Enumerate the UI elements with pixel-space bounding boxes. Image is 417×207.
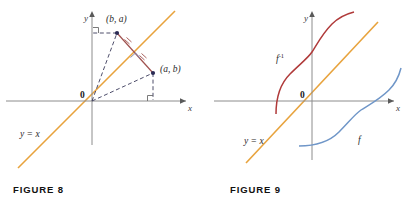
right-angle-mark-x-axis xyxy=(148,96,154,102)
label-curve-f-inverse: f-1 xyxy=(276,52,284,64)
label-curve-f-inverse-exponent: -1 xyxy=(279,52,284,59)
figure-9-caption: FIGURE 9 xyxy=(230,184,281,195)
figure-8-label-line-yx: y = x xyxy=(20,129,40,139)
right-angle-mark-y-axis xyxy=(93,28,99,34)
figure-8-origin-label: 0 xyxy=(80,90,85,100)
y-axis-arrow-icon xyxy=(89,11,95,17)
label-point-ba: (b, a) xyxy=(106,14,127,24)
x-axis-arrow-icon xyxy=(180,98,186,104)
figure-8-panel: y x 0 (b, a) (a, b) y = x FIGURE 8 xyxy=(0,0,209,207)
point-ba-marker xyxy=(115,31,119,35)
figure-8-x-axis-label: x xyxy=(188,103,192,113)
figure-9-plot xyxy=(208,0,417,175)
figure-8-y-axis-label: y xyxy=(84,13,88,23)
line-y-equals-x xyxy=(18,11,175,168)
figure-8-caption: FIGURE 8 xyxy=(13,184,64,195)
figure-pair-container: y x 0 (b, a) (a, b) y = x FIGURE 8 y x 0… xyxy=(0,0,417,207)
label-curve-f: f xyxy=(358,135,361,145)
figure-8-plot xyxy=(0,0,209,175)
figure-9-label-line-yx: y = x xyxy=(244,136,264,146)
dashed-origin-to-point-ab xyxy=(92,73,153,101)
figure-9-y-axis-label: y xyxy=(304,13,308,23)
x-axis-arrow-icon xyxy=(388,98,394,104)
equal-length-tick-marks xyxy=(125,38,147,61)
curve-f xyxy=(299,68,401,146)
y-axis-arrow-icon xyxy=(309,11,315,17)
figure-9-panel: y x 0 f-1 f y = x FIGURE 9 xyxy=(208,0,417,207)
figure-9-x-axis-label: x xyxy=(396,103,400,113)
curve-f-inverse xyxy=(276,12,354,114)
figure-9-origin-label: 0 xyxy=(300,90,305,100)
point-ab-marker xyxy=(151,71,155,75)
label-point-ab: (a, b) xyxy=(160,64,181,74)
